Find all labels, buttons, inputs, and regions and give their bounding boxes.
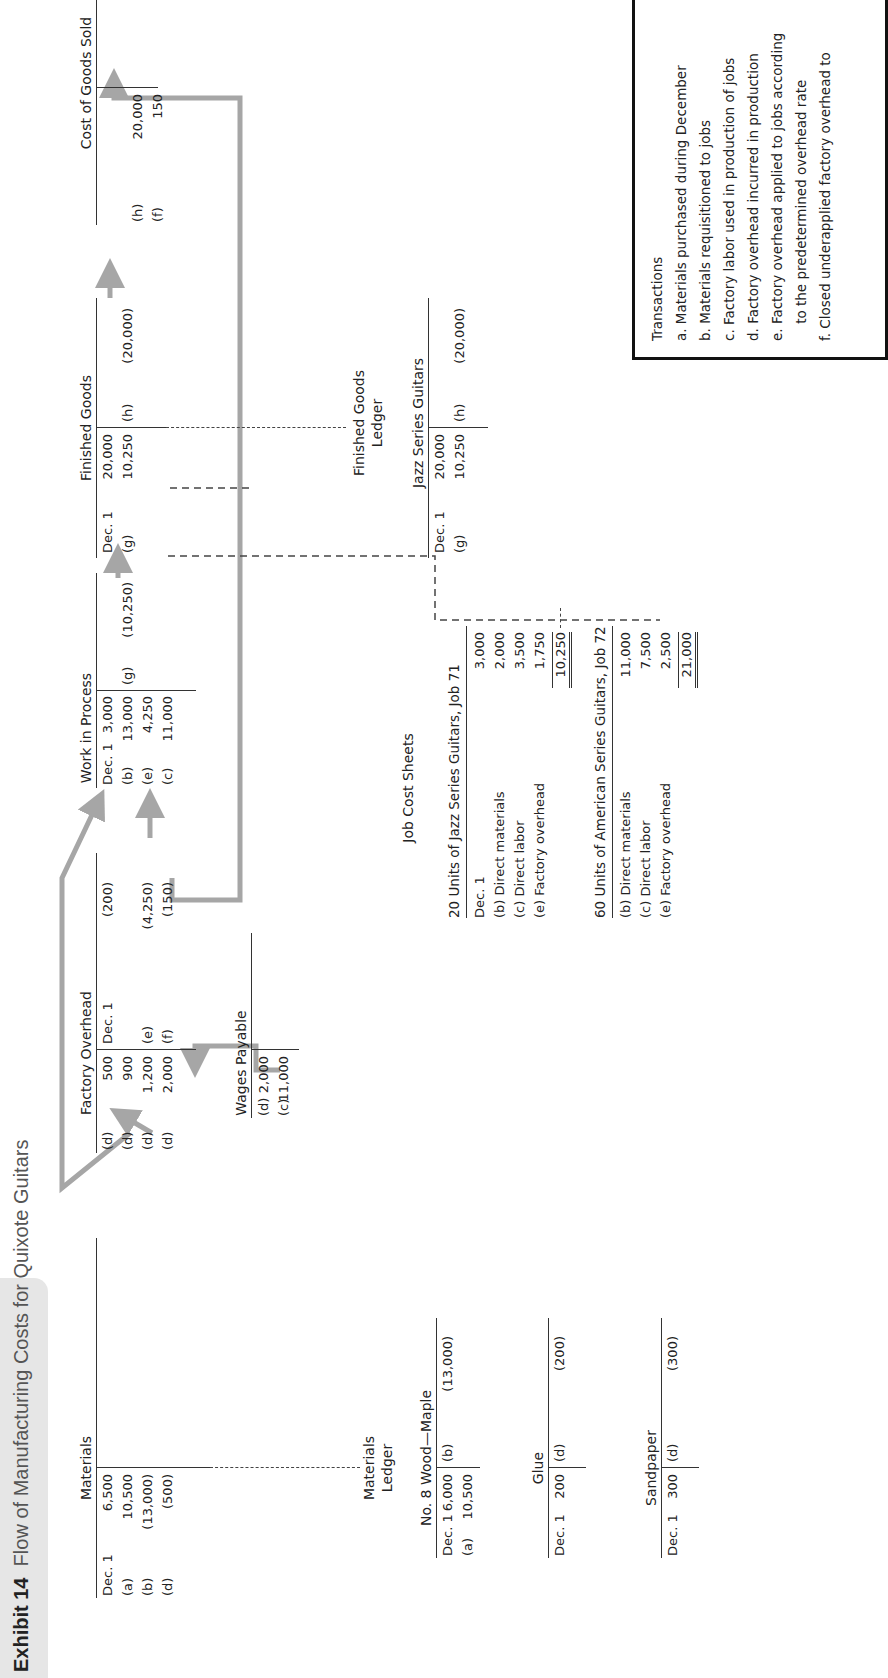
materials-ref: (a) <box>120 1578 136 1596</box>
materials-t-mid <box>96 1467 210 1468</box>
job72-row-amount: 11,000 <box>618 632 634 688</box>
job72-row-label: (b) Direct materials <box>618 791 634 918</box>
fg-ledger-credit-ref: (h) <box>452 404 468 422</box>
ledger-sandpaper-credit-ref: (d) <box>665 1444 681 1462</box>
wip-credit-ref: (g) <box>120 667 136 685</box>
job72-row-amount: 2,500 <box>658 632 674 688</box>
job71-title: 20 Units of Jazz Series Guitars, Job 71 <box>446 664 462 918</box>
fg-t-top <box>96 298 97 558</box>
job71-rule <box>466 626 467 918</box>
cogs-t-top <box>96 0 97 225</box>
exhibit-caption: Flow of Manufacturing Costs for Quixote … <box>10 1140 32 1567</box>
ledger-glue-amount: 200 <box>552 1474 568 1518</box>
fg-ledger-debit-amount: 10,250 <box>452 434 468 488</box>
ledger-glue-t-mid <box>548 1467 586 1468</box>
foh-debit-amount: 2,000 <box>160 1056 176 1106</box>
job72-row-amount: 7,500 <box>638 632 654 688</box>
job71-row-amount: 3,000 <box>472 632 488 688</box>
fg-debit-amount: 10,250 <box>120 434 136 488</box>
ledger-glue-credit-amount: (200) <box>552 1336 568 1398</box>
wip-debit-ref: (b) <box>120 767 136 785</box>
ledger-maple-amount: 10,500 <box>460 1474 476 1528</box>
materials-ledger-label: Materials Ledger <box>360 1408 396 1528</box>
foh-credit-amount: (200) <box>100 882 116 938</box>
ledger-sandpaper-title: Sandpaper <box>643 1418 659 1518</box>
ledger-maple-t-mid <box>436 1467 480 1468</box>
materials-amount: 6,500 <box>100 1474 116 1538</box>
materials-t-top <box>96 1238 97 1598</box>
transaction-item: c. Factory labor used in production of j… <box>721 58 737 341</box>
fg-ledger-t-mid <box>428 427 488 428</box>
fg-ledger-label-line2: Ledger <box>368 358 386 488</box>
transaction-item: f. Closed underapplied factory overhead … <box>817 52 833 341</box>
wip-credit-amount: (10,250) <box>120 582 136 648</box>
job72-title: 60 Units of American Series Guitars, Job… <box>592 626 608 918</box>
materials-amount: 10,500 <box>120 1474 136 1538</box>
cogs-debit-ref: (h) <box>130 204 146 222</box>
title-bar: Exhibit 14 Flow of Manufacturing Costs f… <box>0 1278 48 1678</box>
foh-t-top <box>96 853 97 1153</box>
ledger-sandpaper-credit-amount: (300) <box>665 1336 681 1398</box>
job71-row-label: Dec. 1 <box>472 876 488 918</box>
ledger-sandpaper-t-top <box>661 1318 662 1558</box>
foh-debit-amount: 900 <box>120 1056 136 1106</box>
ledger-maple-t-top <box>436 1318 437 1558</box>
transaction-item: e. Factory overhead applied to jobs acco… <box>769 33 785 341</box>
fg-ledger-connector <box>166 427 346 428</box>
wages-account-title: Wages Payable <box>233 1008 249 1118</box>
wages-amount: 11,000 <box>276 1056 292 1106</box>
wip-account-title: Work in Process <box>78 658 94 798</box>
materials-account-title: Materials <box>78 1408 94 1528</box>
job72-row-label: (e) Factory overhead <box>658 783 674 918</box>
materials-ledger-connector <box>210 1467 360 1468</box>
ledger-glue-title: Glue <box>530 1428 546 1508</box>
job71-row-label: (b) Direct materials <box>492 791 508 918</box>
ledger-maple-credit-amount: (13,000) <box>440 1336 456 1408</box>
ledger-maple-ref: (a) <box>460 1538 476 1556</box>
ledger-sandpaper-t-mid <box>661 1467 699 1468</box>
fg-ledger-jazz-title: Jazz Series Guitars <box>410 353 426 493</box>
exhibit-number: Exhibit 14 <box>10 1578 32 1672</box>
ledger-glue-ref: Dec. 1 <box>552 1514 568 1556</box>
job71-row-amount: 2,000 <box>492 632 508 688</box>
ledger-sandpaper-amount: 300 <box>665 1474 681 1518</box>
transaction-item: a. Materials purchased during December <box>673 65 689 341</box>
job71-row-label: (c) Direct labor <box>512 820 528 918</box>
fg-ledger-t-top <box>428 298 429 558</box>
materials-ref: (d) <box>160 1578 176 1596</box>
materials-ledger-label-line2: Ledger <box>378 1408 396 1528</box>
foh-credit-ref: Dec. 1 <box>100 1002 116 1044</box>
fg-ledger-label-line1: Finished Goods <box>350 358 368 488</box>
wip-t-top <box>96 573 97 788</box>
job71-total: 10,250 <box>552 632 572 688</box>
foh-credit-ref: (e) <box>140 1026 156 1044</box>
fg-ledger-credit-amount: (20,000) <box>452 308 468 378</box>
transactions-box: Transactions a. Materials purchased duri… <box>632 0 888 360</box>
foh-debit-amount: 1,200 <box>140 1056 156 1106</box>
fg-ledger-label: Finished Goods Ledger <box>350 358 386 488</box>
materials-amount: (13,000) <box>140 1474 156 1538</box>
foh-debit-ref: (d) <box>100 1132 116 1150</box>
wages-t-top <box>251 933 252 1118</box>
wip-debit-amount: 3,000 <box>100 696 116 750</box>
job72-row-label: (c) Direct labor <box>638 820 654 918</box>
fg-t-mid <box>96 427 166 428</box>
ledger-sandpaper-ref: Dec. 1 <box>665 1514 681 1556</box>
fg-credit-ref: (h) <box>120 404 136 422</box>
foh-t-mid <box>96 1049 196 1050</box>
wages-amount: 2,000 <box>256 1056 272 1106</box>
cogs-debit-amount: 20,000 <box>130 94 146 148</box>
transaction-item: d. Factory overhead incurred in producti… <box>745 53 761 341</box>
materials-ref: Dec. 1 <box>100 1554 116 1596</box>
job71-row-amount: 3,500 <box>512 632 528 688</box>
fg-debit-ref: Dec. 1 <box>100 511 116 553</box>
ledger-maple-title: No. 8 Wood—Maple <box>418 1388 434 1528</box>
foh-credit-ref: (f) <box>160 1029 176 1044</box>
fg-ledger-debit-ref: (g) <box>452 535 468 553</box>
materials-ledger-label-line1: Materials <box>360 1408 378 1528</box>
job72-total: 21,000 <box>678 632 698 688</box>
fg-credit-amount: (20,000) <box>120 308 136 378</box>
ledger-maple-credit-ref: (b) <box>440 1444 456 1462</box>
foh-credit-amount: (4,250) <box>140 882 156 938</box>
